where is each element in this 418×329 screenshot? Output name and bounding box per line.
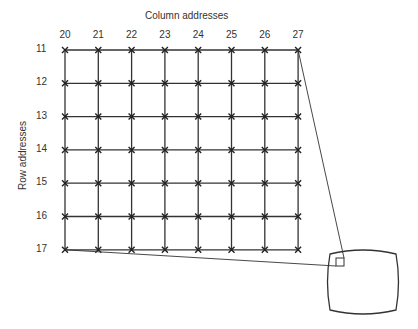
grid-diagram [0, 0, 418, 329]
